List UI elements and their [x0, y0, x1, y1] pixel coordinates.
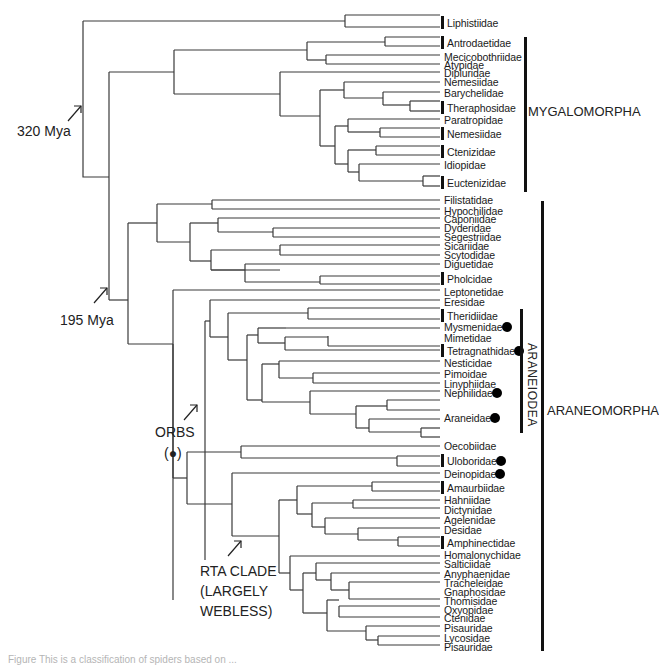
taxon-name: Ctenizidae [447, 146, 496, 158]
arrow-icon-orbs [182, 402, 200, 422]
leaf-marker-bar [441, 536, 444, 549]
mygalomorpha-bracket [524, 37, 527, 192]
clade-label-mygalomorpha: MYGALOMORPHA [528, 104, 641, 119]
leaf-marker-bar [441, 101, 444, 114]
leaf-label: Antrodaetidae [447, 38, 511, 48]
leaf-label: Ctenizidae [447, 147, 496, 157]
leaf-label: Amphinectidae [447, 538, 515, 548]
leaf-label: Nephilidae [444, 388, 502, 398]
taxon-name: Pholcidae [447, 273, 492, 285]
taxon-name: Deinopidae [444, 468, 496, 480]
araneomorpha-bracket [541, 201, 544, 651]
leaf-label: Euctenizidae [447, 178, 506, 188]
taxon-name: Paratropidae [444, 114, 503, 126]
leaf-marker-bar [441, 145, 444, 158]
taxon-name: Diguetidae [444, 258, 493, 270]
taxon-name: Pisauridae [444, 641, 493, 653]
arrow-icon-195mya [92, 285, 110, 305]
taxon-name: Liphistiidae [447, 17, 498, 29]
leaf-label: Oecobiidae [444, 441, 496, 451]
leaf-marker-bar [441, 272, 444, 285]
orb-web-marker-icon [492, 388, 502, 398]
leaf-label: Pisauridae [444, 642, 493, 652]
leaf-marker-bar [441, 176, 444, 189]
leaf-marker-bar [441, 36, 444, 49]
taxon-name: Nemesiidae [447, 128, 501, 140]
orb-symbol-label: (●) [164, 445, 182, 462]
taxon-name: Theraphosidae [447, 102, 516, 114]
arrow-icon-rta [226, 538, 244, 558]
leaf-marker-bar [441, 16, 444, 29]
leaf-label: Araneidae [444, 413, 500, 423]
taxon-name: Antrodaetidae [447, 37, 511, 49]
rta-clade-label-line1: RTA CLADE [200, 563, 277, 580]
rta-clade-label-line2: (LARGELY [200, 583, 268, 600]
arrow-icon-320mya [66, 103, 84, 123]
leaf-label: Nesticidae [444, 358, 492, 368]
leaf-label: Desidae [444, 525, 482, 535]
orbs-label: ORBS [155, 424, 195, 441]
orb-web-marker-icon [490, 413, 500, 423]
leaf-label: Idiopidae [444, 160, 486, 170]
figure-caption: Figure This is a classification of spide… [8, 654, 237, 665]
taxon-name: Oecobiidae [444, 440, 496, 452]
orb-web-marker-icon [496, 456, 506, 466]
taxon-name: Araneidae [444, 412, 491, 424]
leaf-label: Deinopidae [444, 469, 505, 479]
taxon-name: Amphinectidae [447, 537, 515, 549]
divergence-label-320mya: 320 Mya [17, 123, 71, 140]
clade-label-araneiodea: ARANEIODEA [525, 343, 539, 427]
taxon-name: Tetragnathidae [447, 345, 515, 357]
leaf-label: Theraphosidae [447, 103, 516, 113]
leaf-label: Nemesiidae [444, 77, 498, 87]
leaf-marker-bar [441, 454, 444, 467]
leaf-label: Uloboridae [447, 456, 506, 466]
leaf-label: Theridiidae [447, 311, 498, 321]
taxon-name: Eresidae [444, 296, 485, 308]
leaf-label: Barychelidae [444, 88, 504, 98]
taxon-name: Euctenizidae [447, 177, 506, 189]
orb-web-marker-icon [502, 322, 512, 332]
leaf-marker-bar [441, 481, 444, 494]
leaf-label: Eresidae [444, 297, 485, 307]
araneiodea-bracket [520, 309, 523, 433]
taxon-name: Uloboridae [447, 455, 497, 467]
leaf-label: Filistatidae [444, 195, 493, 205]
taxon-name: Nephilidae [444, 387, 493, 399]
leaf-label: Diguetidae [444, 259, 493, 269]
leaf-label: Liphistiidae [447, 18, 498, 28]
taxon-name: Mimetidae [444, 332, 492, 344]
clade-label-araneomorpha: ARANEOMORPHA [547, 403, 659, 418]
taxon-name: Amaurbiidae [447, 482, 505, 494]
taxon-name: Desidae [444, 524, 482, 536]
leaf-label: Amaurbiidae [447, 483, 505, 493]
leaf-label: Tetragnathidae [447, 346, 524, 356]
leaf-marker-bar [441, 127, 444, 140]
rta-clade-label-line3: WEBLESS) [200, 603, 272, 620]
leaf-label: Paratropidae [444, 115, 503, 125]
leaf-label: Nemesiidae [447, 129, 501, 139]
orb-web-marker-icon [495, 469, 505, 479]
leaf-label: Pholcidae [447, 274, 492, 284]
leaf-marker-bar [441, 344, 444, 357]
leaf-label: Mimetidae [444, 333, 492, 343]
taxon-name: Idiopidae [444, 159, 486, 171]
divergence-label-195mya: 195 Mya [60, 312, 114, 329]
leaf-label: Mysmenidae [444, 322, 512, 332]
taxon-name: Barychelidae [444, 87, 504, 99]
